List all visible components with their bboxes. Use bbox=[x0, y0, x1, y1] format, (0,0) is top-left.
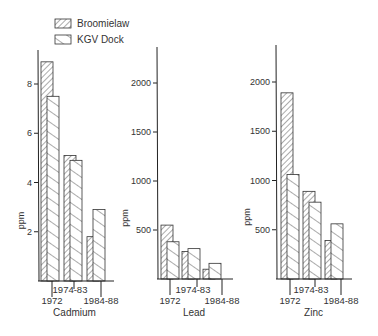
y-tick-label: 1000 bbox=[250, 176, 270, 186]
x-axis-title: Cadmium bbox=[53, 307, 96, 318]
x-axis-title: Lead bbox=[183, 307, 205, 318]
x-tick-label-1984-88: 1984-88 bbox=[205, 295, 240, 306]
x-tick-label-1974-83: 1974-83 bbox=[294, 284, 329, 295]
y-tick-label: 1500 bbox=[250, 126, 270, 136]
legend-swatch-kgv-dock bbox=[55, 35, 71, 44]
bar-kgv-dock-1972 bbox=[287, 175, 299, 279]
legend-label-kgv-dock: KGV Dock bbox=[77, 34, 125, 45]
panel-zinc: 500100015002000ppm19721974-831984-88Zinc bbox=[242, 45, 358, 318]
y-axis bbox=[38, 50, 39, 281]
x-tick-label-1972: 1972 bbox=[279, 295, 300, 306]
bar-kgv-dock-1972 bbox=[47, 96, 59, 281]
y-tick-label: 1000 bbox=[131, 176, 151, 186]
x-tick-label-1984-88: 1984-88 bbox=[324, 295, 359, 306]
legend: Broomielaw KGV Dock bbox=[55, 18, 130, 45]
legend-label-broomielaw: Broomielaw bbox=[77, 18, 130, 29]
y-tick-label: 2 bbox=[27, 227, 32, 237]
x-tick-label-1974-83: 1974-83 bbox=[53, 284, 88, 295]
x-tick-label-1972: 1972 bbox=[41, 295, 62, 306]
y-tick-label: 500 bbox=[255, 225, 270, 235]
bar-kgv-dock-1984-88 bbox=[331, 224, 343, 279]
x-tick-label-1974-83: 1974-83 bbox=[176, 284, 211, 295]
bar-kgv-dock-1974-83 bbox=[70, 160, 82, 281]
bar-kgv-dock-1984-88 bbox=[93, 210, 105, 281]
figure: Broomielaw KGV Dock 2468ppm19721974-8319… bbox=[0, 0, 378, 336]
panel-cadmium: 2468ppm19721974-831984-88Cadmium bbox=[16, 50, 118, 318]
y-tick-label: 2000 bbox=[250, 77, 270, 87]
y-axis-title: ppm bbox=[16, 212, 26, 230]
y-tick-label: 4 bbox=[27, 178, 32, 188]
y-tick-label: 2000 bbox=[131, 78, 151, 88]
legend-item-broomielaw: Broomielaw bbox=[55, 18, 130, 29]
x-tick-label-1972: 1972 bbox=[159, 295, 180, 306]
y-axis-title: ppm bbox=[120, 209, 130, 227]
bar-kgv-dock-1974-83 bbox=[309, 202, 321, 279]
x-tick-label-1984-88: 1984-88 bbox=[84, 295, 119, 306]
x-axis-title: Zinc bbox=[304, 307, 323, 318]
y-tick-label: 1500 bbox=[131, 127, 151, 137]
bar-kgv-dock-1984-88 bbox=[209, 263, 221, 279]
bar-kgv-dock-1972 bbox=[167, 242, 179, 279]
y-tick-label: 6 bbox=[27, 128, 32, 138]
legend-item-kgv-dock: KGV Dock bbox=[55, 34, 125, 45]
y-tick-label: 8 bbox=[27, 79, 32, 89]
y-axis bbox=[276, 45, 277, 279]
y-axis bbox=[157, 47, 158, 279]
y-tick-label: 500 bbox=[136, 225, 151, 235]
bar-kgv-dock-1974-83 bbox=[188, 249, 200, 279]
y-axis-title: ppm bbox=[242, 208, 252, 226]
panel-lead: 500100015002000ppm19721974-831984-88Lead bbox=[120, 47, 239, 318]
legend-swatch-broomielaw bbox=[55, 19, 71, 28]
